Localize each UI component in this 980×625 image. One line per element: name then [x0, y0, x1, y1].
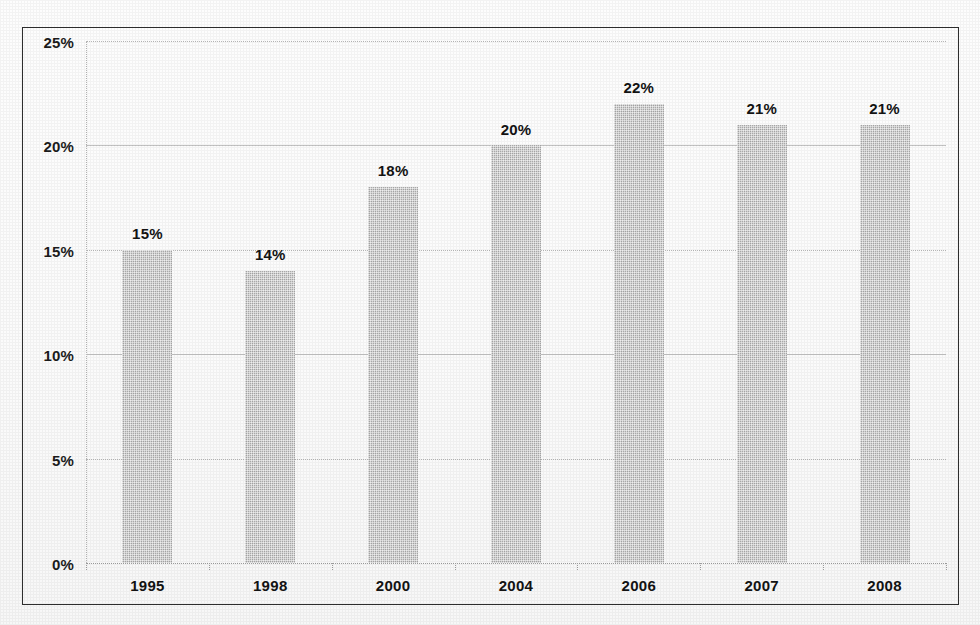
bar-group-2008: 21% 2008: [823, 41, 946, 563]
x-tick-left-1998: [209, 563, 210, 570]
x-tick-left-1995: [86, 563, 87, 570]
x-tick-left-2004: [455, 563, 456, 570]
bar-value-2004: 20%: [501, 121, 532, 138]
x-axis-label-2006: 2006: [622, 577, 657, 594]
x-axis-label-2007: 2007: [744, 577, 779, 594]
y-tick-label-25: 25%: [43, 34, 74, 51]
plot-area: 25% 20% 15% 10% 5% 0% 15% 1995: [86, 41, 946, 563]
bar-group-1998: 14% 1998: [209, 41, 332, 563]
bar-group-2004: 20% 2004: [455, 41, 578, 563]
y-tick-label-5: 5%: [52, 451, 74, 468]
x-tick-left-2007: [700, 563, 701, 570]
bar-group-2006: 22% 2006: [577, 41, 700, 563]
bar-value-2000: 18%: [378, 162, 409, 179]
bar-2006[interactable]: [614, 104, 664, 563]
bar-1995[interactable]: [122, 250, 172, 563]
y-tick-label-0: 0%: [52, 556, 74, 573]
x-tick-left-2008: [823, 563, 824, 570]
gridline-0-baseline: 0%: [86, 563, 946, 564]
bars-layer: 15% 1995 14% 1998 18% 2000 20% 2004: [86, 41, 946, 563]
x-axis-label-1995: 1995: [130, 577, 165, 594]
y-tick-label-20: 20%: [43, 138, 74, 155]
bar-2000[interactable]: [368, 187, 418, 563]
x-axis-label-1998: 1998: [253, 577, 288, 594]
x-axis-label-2008: 2008: [867, 577, 902, 594]
x-axis-label-2004: 2004: [499, 577, 534, 594]
x-tick-left-2000: [332, 563, 333, 570]
bar-2004[interactable]: [491, 145, 541, 563]
bar-group-2000: 18% 2000: [332, 41, 455, 563]
bar-value-2006: 22%: [624, 79, 655, 96]
bar-value-1998: 14%: [255, 246, 286, 263]
x-tick-left-2006: [577, 563, 578, 570]
bar-1998[interactable]: [245, 271, 295, 563]
bar-value-2008: 21%: [869, 100, 900, 117]
x-tick-right-2008: [946, 563, 947, 570]
y-tick-label-15: 15%: [43, 242, 74, 259]
bar-group-2007: 21% 2007: [700, 41, 823, 563]
bar-2008[interactable]: [860, 125, 910, 563]
y-tick-label-10: 10%: [43, 347, 74, 364]
bar-group-1995: 15% 1995: [86, 41, 209, 563]
chart-frame: 25% 20% 15% 10% 5% 0% 15% 1995: [22, 27, 959, 605]
bar-2007[interactable]: [737, 125, 787, 563]
bar-value-1995: 15%: [132, 225, 163, 242]
bar-value-2007: 21%: [746, 100, 777, 117]
x-axis-label-2000: 2000: [376, 577, 411, 594]
